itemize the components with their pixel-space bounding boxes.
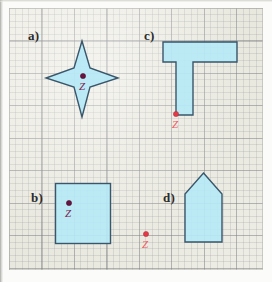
panel-label-a: a) — [28, 28, 39, 44]
shapes-layer — [0, 0, 272, 282]
point-label-z-d: Z — [142, 239, 148, 250]
shape-square — [56, 184, 111, 244]
point-z-c — [173, 111, 178, 116]
point-z-b — [66, 200, 71, 205]
shape-four-pointed-star — [46, 41, 118, 117]
panel-label-d: d) — [163, 190, 175, 206]
panel-label-b: b) — [31, 190, 43, 206]
shape-t — [163, 42, 237, 115]
point-z-d — [143, 231, 148, 236]
point-label-z-c: Z — [172, 119, 178, 130]
figure-page: a) b) c) d) Z Z Z Z — [0, 0, 272, 282]
point-label-z-a: Z — [79, 81, 85, 92]
point-label-z-b: Z — [65, 208, 71, 219]
shape-house-pentagon — [185, 173, 222, 242]
point-z-a — [80, 73, 85, 78]
panel-label-c: c) — [144, 28, 155, 44]
